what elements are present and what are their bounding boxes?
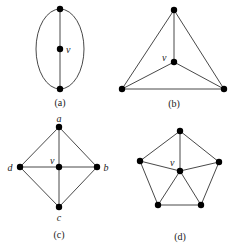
panel-a: v (a) [36,6,84,109]
vertex-v-label: v [50,155,55,166]
panel-c: a b c d v (c) [8,113,109,241]
caption-a: (a) [54,97,65,109]
vertex-bottom-left [155,202,161,208]
vertex-v [171,59,177,65]
vertex-v-label: v [66,44,71,55]
vertex-b-label: b [104,162,109,173]
vertex-right [216,159,222,165]
vertex-b [94,164,100,170]
edge [122,62,174,89]
edge [158,171,180,205]
caption-d: (d) [174,231,186,243]
panel-b: v (b) [119,7,227,110]
caption-b: (b) [168,98,180,110]
vertex-a [56,124,62,130]
vertex-bottom-right [198,202,204,208]
edge [122,10,174,89]
edge [174,10,224,89]
edge [180,131,219,162]
vertex-left [137,158,143,164]
edge [140,161,158,205]
panel-d: v (d) [137,128,222,243]
vertex-v [56,164,62,170]
edge [180,171,201,205]
vertex-v-label: v [162,52,167,63]
edge [201,162,219,205]
vertex-a-label: a [57,113,62,124]
vertex-top [177,128,183,134]
vertex-v-label: v [170,157,175,168]
edge [59,167,97,207]
vertex-top [171,7,177,13]
vertex-c-label: c [57,212,62,223]
graph-figure: v (a) v (b) a b c d v (c) [0,0,233,243]
vertex-v [57,46,63,52]
edge [174,62,224,89]
vertex-bottom-right [221,86,227,92]
vertex-c [56,204,62,210]
vertex-d-label: d [8,162,14,173]
edge [59,127,97,167]
vertex-bottom [57,86,63,92]
edge [180,162,219,171]
vertex-top [57,6,63,12]
caption-c: (c) [53,229,64,241]
edge [20,167,59,207]
vertex-bottom-left [119,86,125,92]
vertex-d [17,164,23,170]
vertex-v [177,168,183,174]
